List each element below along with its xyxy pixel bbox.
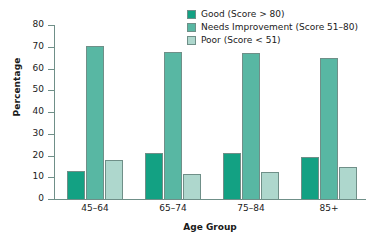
bar[interactable] xyxy=(86,46,104,199)
legend-swatch-good xyxy=(187,10,196,19)
y-tick-20: 20 xyxy=(48,156,54,157)
plot-area: 0 10 20 30 40 50 60 70 80 45–6465–7475–8… xyxy=(54,25,366,200)
y-axis-title: Percentage xyxy=(12,42,22,132)
legend-item-poor[interactable]: Poor (Score < 51) xyxy=(187,34,358,46)
bar-group: 75–84 xyxy=(212,25,290,199)
bar[interactable] xyxy=(145,153,163,199)
legend-label-needs-improvement: Needs Improvement (Score 51–80) xyxy=(201,22,358,32)
x-tick-label: 75–84 xyxy=(212,203,290,213)
legend-swatch-poor xyxy=(187,36,196,45)
y-tick-70: 70 xyxy=(48,47,54,48)
y-tick-label-40: 40 xyxy=(22,106,44,116)
legend-label-poor: Poor (Score < 51) xyxy=(201,35,281,45)
y-tick-label-0: 0 xyxy=(22,193,44,203)
y-tick-label-80: 80 xyxy=(22,19,44,29)
y-tick-label-70: 70 xyxy=(22,41,44,51)
legend-swatch-needs-improvement xyxy=(187,23,196,32)
bar-group: 45–64 xyxy=(56,25,134,199)
y-tick-80: 80 xyxy=(48,25,54,26)
bar-chart: Percentage 0 10 20 30 40 50 60 70 80 xyxy=(0,0,382,244)
bar[interactable] xyxy=(261,172,279,199)
bar[interactable] xyxy=(223,153,241,199)
bar[interactable] xyxy=(67,171,85,199)
y-tick-label-60: 60 xyxy=(22,63,44,73)
bar[interactable] xyxy=(320,58,338,199)
y-tick-60: 60 xyxy=(48,69,54,70)
y-tick-30: 30 xyxy=(48,134,54,135)
legend-item-needs-improvement[interactable]: Needs Improvement (Score 51–80) xyxy=(187,21,358,33)
bar[interactable] xyxy=(339,167,357,199)
bar[interactable] xyxy=(105,160,123,199)
x-tick-label: 85+ xyxy=(290,203,368,213)
bar-group: 65–74 xyxy=(134,25,212,199)
legend-item-good[interactable]: Good (Score > 80) xyxy=(187,8,358,20)
bar-group: 85+ xyxy=(290,25,368,199)
bar[interactable] xyxy=(183,174,201,199)
x-tick-label: 45–64 xyxy=(56,203,134,213)
legend-label-good: Good (Score > 80) xyxy=(201,9,285,19)
bar[interactable] xyxy=(164,52,182,199)
x-tick-label: 65–74 xyxy=(134,203,212,213)
y-tick-50: 50 xyxy=(48,90,54,91)
bar[interactable] xyxy=(301,157,319,199)
y-tick-10: 10 xyxy=(48,177,54,178)
y-tick-label-10: 10 xyxy=(22,171,44,181)
y-tick-40: 40 xyxy=(48,112,54,113)
bar[interactable] xyxy=(242,53,260,199)
x-axis-title: Age Group xyxy=(54,222,366,232)
x-axis-line xyxy=(54,199,366,200)
y-tick-label-20: 20 xyxy=(22,150,44,160)
y-tick-label-50: 50 xyxy=(22,84,44,94)
y-axis-line xyxy=(54,25,55,200)
y-tick-0: 0 xyxy=(48,199,54,200)
y-tick-label-30: 30 xyxy=(22,128,44,138)
legend: Good (Score > 80) Needs Improvement (Sco… xyxy=(187,8,358,47)
